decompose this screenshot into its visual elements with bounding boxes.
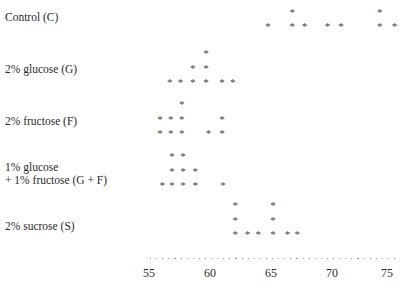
axis-dot bbox=[260, 258, 261, 259]
axis-dot bbox=[248, 258, 249, 259]
data-point: * bbox=[219, 128, 225, 138]
group-label-glucose: 2% glucose (G) bbox=[5, 63, 77, 76]
data-point: * bbox=[230, 77, 236, 87]
axis-dot bbox=[388, 258, 389, 259]
axis-dot bbox=[162, 258, 163, 259]
data-point: * bbox=[220, 180, 226, 190]
axis-dot bbox=[181, 258, 182, 259]
axis-dot bbox=[235, 258, 236, 259]
axis-dot bbox=[193, 258, 194, 259]
data-point: * bbox=[168, 128, 174, 138]
data-point: * bbox=[192, 166, 198, 176]
group-label-glucose-fructose: 1% glucose + 1% fructose (G + F) bbox=[5, 161, 107, 187]
axis-dot bbox=[339, 258, 340, 259]
axis-dot bbox=[370, 258, 371, 259]
data-point: * bbox=[169, 151, 175, 161]
data-point: * bbox=[270, 200, 276, 210]
data-point: * bbox=[290, 21, 296, 31]
data-point: * bbox=[167, 77, 173, 87]
data-point: * bbox=[168, 114, 174, 124]
data-point: * bbox=[302, 21, 308, 31]
data-point: * bbox=[203, 63, 209, 73]
data-point: * bbox=[294, 229, 300, 239]
data-point: * bbox=[270, 229, 276, 239]
data-point: * bbox=[245, 229, 251, 239]
axis-dot bbox=[266, 258, 267, 259]
axis-dot bbox=[394, 258, 395, 259]
axis-dot bbox=[156, 258, 157, 259]
axis-dot bbox=[296, 258, 297, 259]
axis-dot bbox=[315, 258, 316, 259]
axis-dot bbox=[345, 258, 346, 259]
data-point: * bbox=[256, 229, 262, 239]
x-tick-65: 65 bbox=[265, 266, 277, 281]
axis-dot bbox=[333, 258, 334, 259]
axis-dot bbox=[309, 258, 310, 259]
data-point: * bbox=[285, 229, 291, 239]
data-point: * bbox=[233, 200, 239, 210]
group-label-sucrose: 2% sucrose (S) bbox=[5, 220, 75, 233]
axis-dot bbox=[278, 258, 279, 259]
data-point: * bbox=[206, 128, 212, 138]
axis-dot bbox=[357, 258, 358, 259]
data-point: * bbox=[178, 77, 184, 87]
data-point: * bbox=[180, 166, 186, 176]
data-point: * bbox=[157, 128, 163, 138]
group-label-gf-line1: 1% glucose bbox=[5, 161, 107, 174]
data-point: * bbox=[377, 21, 383, 31]
x-tick-70: 70 bbox=[326, 266, 338, 281]
axis-dot bbox=[376, 258, 377, 259]
data-point: * bbox=[179, 114, 185, 124]
x-tick-60: 60 bbox=[204, 266, 216, 281]
data-point: * bbox=[219, 77, 225, 87]
data-point: * bbox=[270, 215, 276, 225]
group-label-gf-line2: + 1% fructose (G + F) bbox=[5, 174, 107, 187]
group-label-control: Control (C) bbox=[5, 11, 58, 24]
data-point: * bbox=[203, 48, 209, 58]
axis-dot bbox=[205, 258, 206, 259]
data-point: * bbox=[160, 180, 166, 190]
axis-dot bbox=[303, 258, 304, 259]
data-point: * bbox=[157, 114, 163, 124]
axis-dot bbox=[284, 258, 285, 259]
data-point: * bbox=[377, 7, 383, 17]
data-point: * bbox=[290, 7, 296, 17]
data-point: * bbox=[179, 128, 185, 138]
axis-dot bbox=[174, 258, 175, 259]
axis-dot bbox=[290, 258, 291, 259]
group-label-fructose: 2% fructose (F) bbox=[5, 115, 77, 128]
x-tick-75: 75 bbox=[381, 266, 393, 281]
data-point: * bbox=[338, 21, 344, 31]
axis-dot bbox=[351, 258, 352, 259]
data-point: * bbox=[180, 180, 186, 190]
axis-dot bbox=[150, 258, 151, 259]
axis-dot bbox=[327, 258, 328, 259]
data-point: * bbox=[325, 21, 331, 31]
data-point: * bbox=[265, 21, 271, 31]
axis-dot bbox=[382, 258, 383, 259]
data-point: * bbox=[190, 77, 196, 87]
data-point: * bbox=[180, 151, 186, 161]
axis-dot bbox=[272, 258, 273, 259]
axis-dot bbox=[254, 258, 255, 259]
axis-dot bbox=[211, 258, 212, 259]
axis-dot bbox=[223, 258, 224, 259]
axis-dot bbox=[229, 258, 230, 259]
data-point: * bbox=[219, 114, 225, 124]
data-point: * bbox=[392, 21, 398, 31]
axis-dot bbox=[199, 258, 200, 259]
axis-dot bbox=[321, 258, 322, 259]
data-point: * bbox=[190, 63, 196, 73]
axis-dot bbox=[187, 258, 188, 259]
data-point: * bbox=[169, 166, 175, 176]
axis-dot bbox=[168, 258, 169, 259]
data-point: * bbox=[169, 180, 175, 190]
data-point: * bbox=[179, 99, 185, 109]
x-tick-55: 55 bbox=[143, 266, 155, 281]
axis-dot bbox=[242, 258, 243, 259]
axis-dot bbox=[217, 258, 218, 259]
data-point: * bbox=[192, 180, 198, 190]
data-point: * bbox=[233, 229, 239, 239]
data-point: * bbox=[233, 215, 239, 225]
axis-dot bbox=[364, 258, 365, 259]
